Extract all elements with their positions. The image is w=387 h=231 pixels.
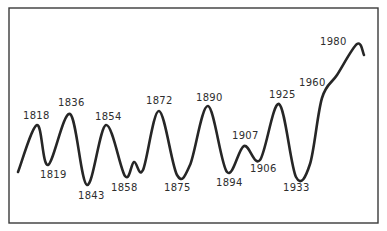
year-label-1843: 1843	[78, 190, 105, 201]
year-label-1875: 1875	[164, 182, 191, 193]
year-label-1854: 1854	[95, 111, 122, 122]
year-label-1907: 1907	[232, 130, 259, 141]
year-label-1960: 1960	[299, 77, 326, 88]
year-label-1819: 1819	[40, 169, 67, 180]
year-label-1925: 1925	[269, 89, 296, 100]
year-label-1890: 1890	[196, 92, 223, 103]
year-label-1872: 1872	[146, 95, 173, 106]
year-label-1894: 1894	[216, 177, 243, 188]
year-label-1836: 1836	[58, 97, 85, 108]
year-label-1906: 1906	[250, 163, 277, 174]
cycle-line	[18, 43, 364, 185]
cycle-chart: 1818181918361843185418581872187518901894…	[0, 0, 387, 231]
year-label-1933: 1933	[283, 182, 310, 193]
year-label-1980: 1980	[320, 36, 347, 47]
year-label-1818: 1818	[23, 110, 50, 121]
year-label-1858: 1858	[111, 182, 138, 193]
